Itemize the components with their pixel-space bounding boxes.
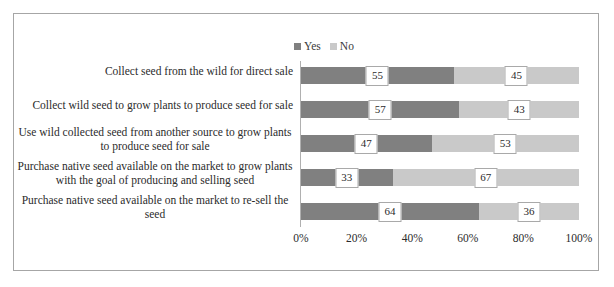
legend-item-yes: Yes	[294, 40, 321, 52]
bar-row-4: 64 36	[301, 203, 579, 220]
legend-swatch-yes	[294, 43, 301, 50]
bar-segment-no: 67	[393, 169, 579, 186]
bar-value-label-yes: 47	[355, 134, 378, 154]
bar-value-label-yes: 33	[335, 168, 358, 188]
bar-value-label-yes: 57	[369, 100, 392, 120]
bar-value-label-yes: 64	[378, 202, 401, 222]
stacked-bar-track: 33 67	[301, 169, 579, 186]
category-label-2: Use wild collected seed from another sou…	[17, 126, 293, 153]
category-label-line: Purchase native seed available on the ma…	[17, 160, 293, 174]
x-tick-20: 20%	[346, 232, 367, 244]
chart-legend: Yes No	[14, 40, 598, 52]
legend-swatch-no	[330, 43, 337, 50]
bar-value-label-no: 36	[517, 202, 540, 222]
bar-value-label-no: 45	[505, 66, 528, 86]
x-tick-0: 0%	[293, 232, 308, 244]
category-label-3: Purchase native seed available on the ma…	[17, 160, 293, 187]
stacked-bar-track: 47 53	[301, 135, 579, 152]
category-label-line: with the goal of producing and selling s…	[17, 174, 293, 188]
category-label-line: Collect wild seed to grow plants to prod…	[17, 99, 293, 113]
bar-segment-no: 36	[479, 203, 579, 220]
bar-segment-no: 53	[432, 135, 579, 152]
bar-row-3: 33 67	[301, 169, 579, 186]
category-label-1: Collect wild seed to grow plants to prod…	[17, 99, 293, 113]
bar-value-label-yes: 55	[366, 66, 389, 86]
legend-label-no: No	[340, 40, 354, 52]
x-tick-80: 80%	[513, 232, 534, 244]
bar-segment-yes: 33	[301, 169, 393, 186]
bar-segment-no: 43	[459, 101, 579, 118]
bar-row-2: 47 53	[301, 135, 579, 152]
bar-segment-yes: 47	[301, 135, 432, 152]
x-tick-40: 40%	[402, 232, 423, 244]
chart-figure: Yes No Collect seed from the wild for di…	[13, 13, 599, 271]
x-tick-100: 100%	[566, 232, 593, 244]
bar-segment-no: 45	[454, 67, 579, 84]
bar-segment-yes: 64	[301, 203, 479, 220]
bar-row-0: 55 45	[301, 67, 579, 84]
legend-item-no: No	[330, 40, 354, 52]
stacked-bar-track: 57 43	[301, 101, 579, 118]
bar-segment-yes: 55	[301, 67, 454, 84]
bar-value-label-no: 53	[494, 134, 517, 154]
stacked-bar-track: 55 45	[301, 67, 579, 84]
bar-value-label-no: 43	[508, 100, 531, 120]
x-axis: 0% 20% 40% 60% 80% 100%	[301, 232, 579, 250]
category-label-line: Purchase native seed available on the ma…	[17, 194, 293, 208]
plot-area: 55 45 57 43 47	[301, 61, 579, 227]
x-tick-60: 60%	[457, 232, 478, 244]
category-label-line: Collect seed from the wild for direct sa…	[17, 65, 293, 79]
category-label-line: seed	[17, 208, 293, 222]
bar-value-label-no: 67	[474, 168, 497, 188]
stacked-bar-track: 64 36	[301, 203, 579, 220]
category-label-4: Purchase native seed available on the ma…	[17, 194, 293, 221]
bar-row-1: 57 43	[301, 101, 579, 118]
legend-label-yes: Yes	[304, 40, 321, 52]
bar-segment-yes: 57	[301, 101, 459, 118]
category-label-line: to produce seed for sale	[17, 140, 293, 154]
category-label-line: Use wild collected seed from another sou…	[17, 126, 293, 140]
category-label-0: Collect seed from the wild for direct sa…	[17, 65, 293, 79]
